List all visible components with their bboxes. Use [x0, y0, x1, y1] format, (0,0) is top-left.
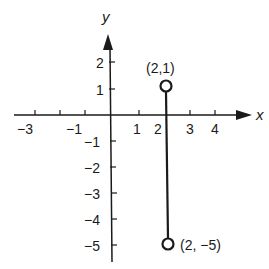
y-tick-label-neg1: −1: [84, 134, 100, 150]
y-tick-label-1: 1: [96, 82, 104, 98]
x-tick-label-4: 4: [211, 121, 219, 137]
y-tick-label-neg5: −5: [84, 238, 100, 254]
x-axis-label: x: [255, 106, 264, 123]
diagram-svg: x y −3 −1 1 2 3 4 2 1 −1 −2 −3 −4 −5 (2,…: [0, 0, 269, 269]
x-tick-label-1: 1: [133, 121, 141, 137]
y-tick-label-neg3: −3: [84, 186, 100, 202]
y-axis: [110, 48, 112, 262]
y-tick-label-neg4: −4: [84, 212, 100, 228]
x-tick-label-3: 3: [186, 121, 194, 137]
x-tick-label-neg1: −1: [66, 121, 82, 137]
open-endpoint-top-icon: [161, 81, 172, 92]
point-label-top: (2,1): [146, 60, 175, 76]
y-axis-label: y: [101, 8, 111, 25]
y-tick-label-2: 2: [96, 55, 104, 71]
segment-x-equals-2: [166, 92, 168, 239]
y-tick-label-neg2: −2: [84, 160, 100, 176]
y-ticks: [109, 62, 117, 245]
y-axis-arrow-icon: [103, 34, 113, 50]
x-tick-label-2: 2: [154, 121, 162, 137]
x-tick-label-neg3: −3: [17, 121, 33, 137]
coordinate-diagram: x y −3 −1 1 2 3 4 2 1 −1 −2 −3 −4 −5 (2,…: [0, 0, 269, 269]
open-endpoint-bottom-icon: [163, 239, 174, 250]
x-axis-arrow-icon: [236, 110, 252, 120]
point-label-bottom: (2, −5): [180, 237, 221, 253]
